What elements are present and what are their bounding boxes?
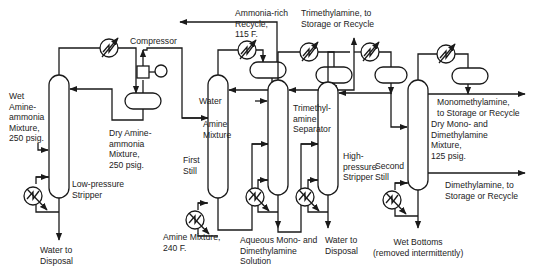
compressor-label: Compressor: [130, 36, 177, 47]
water-disposal-1-label: Water to Disposal: [40, 245, 73, 266]
aqueous-solution-label: Aqueous Mono- and Dimethylamine Solution: [240, 235, 317, 267]
reflux-drum-2: [250, 62, 286, 78]
condenser-icon: [300, 42, 318, 61]
feed-label: Wet Amine- ammonia Mixture, 250 psig.: [9, 91, 44, 144]
second-still-column: [408, 80, 428, 190]
dry-mono-di-label: Dry Mono- and Dimethylamine Mixture, 125…: [431, 119, 488, 161]
trimethylamine-separator-label: Trimethyl- amine Separator: [293, 103, 331, 135]
reflux-drum-3: [316, 67, 352, 83]
reflux-drum-5: [452, 68, 488, 84]
high-pressure-stripper-column: [318, 82, 338, 195]
condenser-icon: [361, 42, 379, 61]
condenser-icon: [238, 40, 256, 59]
process-flow-diagram: Wet Amine- ammonia Mixture, 250 psig. Co…: [0, 0, 537, 269]
amine-mixture-240-label: Amine Mixture, 240 F.: [163, 232, 220, 253]
compressor-motor-icon: [155, 65, 167, 77]
dimethylamine-out-label: Dimethylamine, to Storage or Recycle: [445, 180, 518, 201]
dry-amine-ammonia-label: Dry Amine- ammonia Mixture, 250 psig.: [109, 128, 152, 170]
condenser-icon: [100, 38, 118, 57]
ammonia-recycle-label: Ammonia-rich Recycle, 115 F.: [235, 8, 288, 40]
low-pressure-stripper-label: Low-pressure Stripper: [72, 179, 124, 200]
monomethylamine-out-label: Monomethylamine, to Storage or Recycle: [437, 97, 520, 118]
reflux-drum-4: [375, 67, 407, 83]
water-in-label: Water: [199, 96, 222, 107]
condenser-icon: [437, 44, 455, 63]
water-disposal-2-label: Water to Disposal: [325, 235, 358, 256]
reflux-drum-1: [125, 93, 161, 109]
high-pressure-stripper-label: High- pressure Stripper: [343, 151, 376, 183]
compressor-icon: [137, 66, 149, 78]
amine-mixture-label: Amine Mixture: [203, 119, 231, 140]
trimethylamine-separator-column: [268, 80, 288, 195]
wet-bottoms-label: Wet Bottoms (removed intermittently): [373, 237, 463, 258]
second-still-label: Second Still: [375, 161, 404, 182]
low-pressure-stripper-column: [49, 75, 69, 198]
trimethylamine-out-label: Trimethylamine, to Storage or Recycle: [301, 8, 374, 29]
first-still-label: First Still: [183, 155, 200, 176]
